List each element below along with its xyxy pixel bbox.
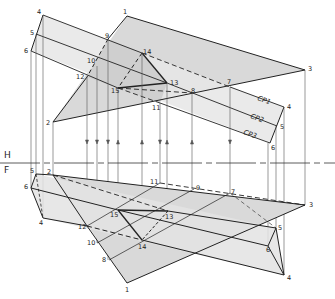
front-point-label-9: 9 [196,184,200,192]
top-point-label-11: 11 [152,104,160,112]
front-point-label-14: 14 [138,243,146,251]
front-point-label-13: 13 [165,213,173,221]
top-point-label-7: 7 [227,78,231,86]
top-point-label-4: 4 [37,8,41,16]
top-point-label-1: 1 [123,8,127,16]
top-point-label-9: 9 [105,32,109,40]
front-point-label-15: 15 [110,211,118,219]
front-point-label-1: 1 [125,286,129,294]
front-view [31,174,305,283]
front-point-label-7: 7 [231,188,235,196]
top-point-label-5: 5 [280,123,284,131]
front-point-label-10: 10 [87,239,95,247]
front-point-label-8: 8 [102,256,106,264]
top-point-label-4: 4 [287,103,291,111]
top-point-label-2: 2 [46,119,50,127]
fold-label-f: F [4,165,9,175]
top-point-label-10: 10 [87,57,95,65]
top-point-label-5: 5 [30,29,34,37]
top-point-label-12: 12 [76,73,84,81]
top-view [31,15,305,143]
top-point-label-14: 14 [143,48,151,56]
top-point-label-15: 15 [111,87,119,95]
front-point-label-2: 2 [47,168,51,176]
front-point-label-6: 6 [266,246,270,254]
front-point-label-5: 5 [278,224,282,232]
top-point-label-13: 13 [170,79,178,87]
front-point-label-12: 12 [78,223,86,231]
top-point-label-3: 3 [308,65,312,73]
top-point-label-6: 6 [271,144,275,152]
front-point-label-4: 4 [287,274,291,282]
front-point-label-4: 4 [39,219,43,227]
front-point-label-3: 3 [309,201,313,209]
fold-label-h: H [4,150,11,160]
top-point-label-8: 8 [191,87,195,95]
top-point-label-6: 6 [24,47,28,55]
front-point-label-11: 11 [150,178,158,186]
front-point-label-6: 6 [24,183,28,191]
front-point-label-5: 5 [30,167,34,175]
descriptive-geometry-drawing: H F [0,0,335,299]
